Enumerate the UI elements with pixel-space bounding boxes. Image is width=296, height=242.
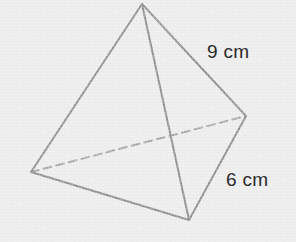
visible-edges-group: [31, 4, 246, 220]
edge-left-bottom: [31, 172, 189, 220]
edge-right-bottom: [189, 116, 246, 220]
tetrahedron-figure: [0, 0, 296, 242]
dimension-label-base-edge: 6 cm: [226, 170, 268, 189]
dimension-label-slant-edge: 9 cm: [207, 42, 249, 61]
edge-apex-bottom: [142, 4, 189, 220]
